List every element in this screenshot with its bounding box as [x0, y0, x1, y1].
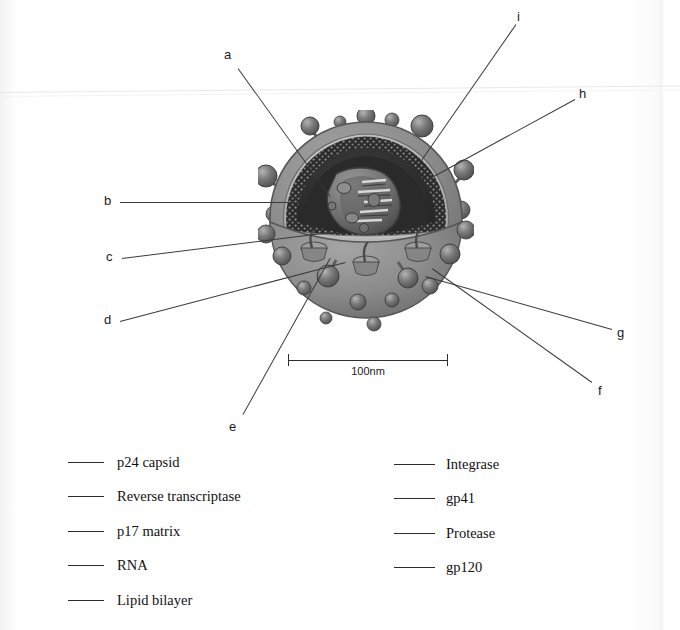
legend-dash: [394, 567, 435, 568]
legend-item: Reverse transcriptase: [68, 487, 241, 507]
legend-label: RNA: [117, 557, 148, 574]
scale-bar: 100nm: [288, 353, 448, 383]
callout-letter-h: h: [579, 87, 586, 100]
legend-label: p24 capsid: [117, 454, 179, 471]
scale-bar-label: 100nm: [288, 365, 448, 377]
callout-letter-d: d: [104, 313, 111, 326]
legend-dash: [68, 462, 104, 463]
legend-label: Protease: [446, 525, 495, 542]
legend-item: p17 matrix: [68, 521, 180, 541]
leader-line-b: [120, 202, 300, 203]
legend-label: Integrase: [446, 456, 499, 473]
legend-label: p17 matrix: [117, 523, 180, 540]
scale-bar-line: [288, 360, 448, 361]
legend: p24 capsidReverse transcriptasep17 matri…: [0, 444, 663, 624]
legend-label: Lipid bilayer: [117, 592, 192, 609]
reverse-transcriptase-blob: [337, 183, 351, 194]
legend-label: gp41: [446, 490, 475, 507]
legend-item: RNA: [68, 556, 148, 576]
callout-letter-f: f: [598, 384, 602, 397]
protease-blob: [346, 213, 359, 223]
legend-item: gp120: [394, 558, 482, 578]
legend-dash: [68, 565, 104, 566]
legend-item: Lipid bilayer: [68, 590, 192, 610]
integrase-blob: [368, 194, 380, 207]
hiv-virion-illustration: [258, 110, 474, 344]
legend-dash: [68, 531, 104, 532]
legend-dash: [68, 496, 104, 497]
viral-core-contents: [327, 168, 400, 235]
legend-dash: [394, 533, 435, 534]
legend-item: gp41: [394, 489, 475, 509]
legend-item: Protease: [394, 523, 495, 543]
callout-letter-e: e: [229, 420, 236, 433]
callout-letter-i: i: [517, 10, 520, 23]
callout-letter-c: c: [106, 250, 113, 263]
callout-letter-b: b: [104, 194, 111, 207]
callout-letter-a: a: [224, 48, 231, 61]
legend-item: Integrase: [394, 454, 499, 474]
legend-dash: [394, 498, 435, 499]
legend-dash: [394, 464, 435, 465]
legend-dash: [68, 600, 104, 601]
legend-label: gp120: [446, 559, 482, 576]
legend-item: p24 capsid: [68, 452, 179, 472]
callout-letter-g: g: [617, 326, 624, 339]
legend-label: Reverse transcriptase: [117, 488, 241, 505]
